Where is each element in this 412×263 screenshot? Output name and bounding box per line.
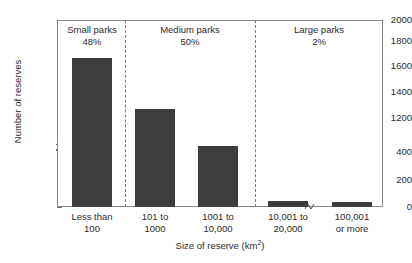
x-tick-label-less-than-100-line1: Less than [71,211,112,222]
x-tick-label-100001-or-more-line2: or more [317,223,387,235]
group-divider-medium-large [255,20,256,207]
x-tick-label-10001-to-20000: 10,001 to 20,000 [251,211,325,234]
x-tick-label-1001-to-10000-line2: 10,000 [183,223,253,235]
x-axis-title: Size of reserve (km2) [57,239,383,251]
y-tick-label-200: 200 [378,175,412,185]
bar-10001-to-20000 [268,201,308,207]
group-label-small-parks: Small parks 48% [59,24,125,48]
group-label-large-parks: Large parks 2% [255,24,383,48]
y-tick-label-1800: 1800 [378,36,412,46]
y-tick-label-2000: 2000 [378,15,412,25]
bar-101-to-1000 [135,109,175,207]
bar-1001-to-10000 [198,146,238,207]
bar-less-than-100 [72,58,112,207]
bar-100001-or-more [332,202,372,208]
x-tick-label-less-than-100: Less than 100 [57,211,127,234]
chart-screenshot: Number of reserves 2000 1800 1600 1400 1… [0,0,412,263]
y-tick-label-1400: 1400 [378,87,412,97]
group-label-small-parks-percent: 48% [82,36,101,47]
group-divider-small-medium [125,20,126,207]
x-tick-label-less-than-100-line2: 100 [57,223,127,235]
x-tick-label-1001-to-10000: 1001 to 10,000 [183,211,253,234]
x-tick-label-100001-or-more: 100,001 or more [317,211,387,234]
x-axis-title-base: Size of reserve (km [176,240,258,251]
x-tick-label-101-to-1000-line2: 1000 [120,223,190,235]
x-tick-label-1001-to-10000-line1: 1001 to [202,211,234,222]
group-label-medium-parks-name: Medium parks [160,24,220,35]
y-tick-mark-0 [57,207,62,208]
group-label-medium-parks: Medium parks 50% [125,24,255,48]
x-tick-label-100001-or-more-line1: 100,001 [335,211,369,222]
group-label-medium-parks-percent: 50% [180,36,199,47]
x-axis-title-tail: ) [261,240,264,251]
x-tick-label-101-to-1000: 101 to 1000 [120,211,190,234]
group-label-large-parks-name: Large parks [294,24,344,35]
y-tick-label-1200: 1200 [378,113,412,123]
y-axis-title: Number of reserves [12,42,23,162]
group-label-small-parks-name: Small parks [67,24,117,35]
group-label-large-parks-percent: 2% [312,36,326,47]
y-tick-label-400: 400 [378,147,412,157]
x-tick-label-10001-to-20000-line2: 20,000 [251,223,325,235]
x-tick-label-101-to-1000-line1: 101 to [142,211,168,222]
x-tick-label-10001-to-20000-line1: 10,001 to [268,211,308,222]
y-tick-label-1600: 1600 [378,61,412,71]
